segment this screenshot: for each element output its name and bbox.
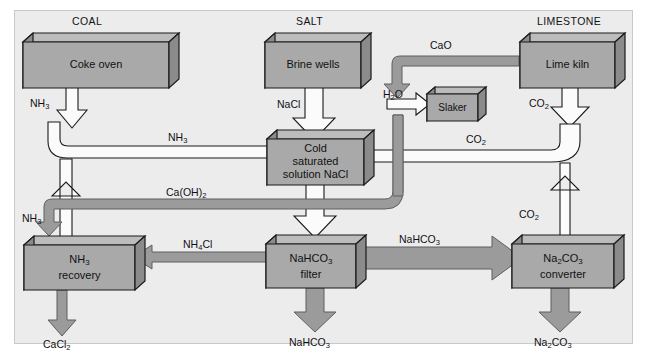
node-slaker[interactable] <box>427 87 486 121</box>
flow-nahco3-to-converter <box>355 236 522 280</box>
node-brine-wells[interactable] <box>265 33 371 88</box>
flow-co2-from-converter <box>551 163 579 238</box>
flow-nh4cl-to-recovery <box>133 245 277 269</box>
product-na2co3-arrow <box>539 288 581 332</box>
node-cold-solution[interactable] <box>267 130 374 185</box>
node-lime-kiln[interactable] <box>520 33 625 88</box>
header-coal: COAL <box>72 15 102 27</box>
node-coke-oven[interactable] <box>23 33 179 97</box>
flow-graphics: .wf{fill:#fbfbfb;stroke:#1a1a1a;stroke-w… <box>0 0 647 362</box>
node-nahco3-filter[interactable] <box>266 235 366 288</box>
product-cacl2-arrow <box>48 290 76 336</box>
node-na2co3-converter[interactable] <box>512 235 624 288</box>
header-limestone: LIMESTONE <box>537 15 601 27</box>
node-nh3-recovery[interactable] <box>24 236 145 290</box>
product-nahco3-arrow <box>294 288 336 332</box>
flow-solution-to-filter <box>294 183 336 238</box>
flow-h2o-to-slaker <box>387 93 430 115</box>
header-salt: SALT <box>296 15 323 27</box>
diagram-canvas: .wf{fill:#fbfbfb;stroke:#1a1a1a;stroke-w… <box>0 0 647 362</box>
